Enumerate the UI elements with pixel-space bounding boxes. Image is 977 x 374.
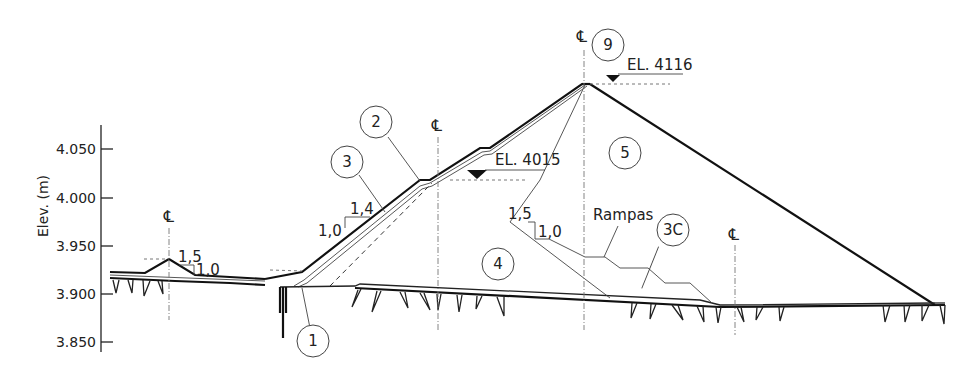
upstream-slope-v: 1,0 bbox=[318, 222, 342, 240]
y-tick-3950: 3.950 bbox=[56, 238, 96, 254]
internal-slope-v: 1,0 bbox=[538, 223, 562, 241]
crest-elevation-label: EL. 4116 bbox=[627, 56, 693, 74]
upstream-slope-h: 1,4 bbox=[350, 200, 374, 218]
centerline-icon: ℄ bbox=[576, 27, 588, 46]
berm-elevation-label: EL. 4015 bbox=[495, 151, 561, 169]
svg-text:3: 3 bbox=[342, 153, 352, 171]
zone-bubble-1: 1 bbox=[297, 325, 329, 357]
centerline-icon: ℄ bbox=[431, 116, 443, 135]
y-tick-3850: 3.850 bbox=[56, 334, 96, 350]
crest-centerline: ℄ bbox=[576, 27, 588, 330]
zone-bubble-9: 9 bbox=[592, 29, 624, 61]
ramps-label: Rampas bbox=[593, 206, 654, 224]
downstream-centerline: ℄ bbox=[728, 225, 740, 335]
svg-text:1: 1 bbox=[308, 332, 318, 350]
water-level-triangle-icon bbox=[467, 170, 487, 179]
zone-bubble-4: 4 bbox=[482, 248, 514, 280]
svg-text:4: 4 bbox=[493, 255, 503, 273]
zone-bubble-3: 3 bbox=[331, 146, 363, 178]
left-dike-centerline: ℄ bbox=[163, 207, 175, 320]
centerline-icon: ℄ bbox=[728, 225, 740, 244]
svg-text:2: 2 bbox=[371, 113, 381, 131]
y-axis: 4.050 4.000 3.950 3.900 3.850 Elev. (m) bbox=[35, 125, 113, 352]
y-tick-4000: 4.000 bbox=[56, 190, 96, 206]
zone-bubble-2: 2 bbox=[360, 106, 392, 138]
dam-cross-section-diagram: 4.050 4.000 3.950 3.900 3.850 Elev. (m) … bbox=[0, 0, 977, 374]
left-dike: 1,5 1,0 bbox=[110, 248, 265, 296]
y-tick-4050: 4.050 bbox=[56, 141, 96, 157]
y-axis-label: Elev. (m) bbox=[35, 175, 51, 237]
svg-text:3C: 3C bbox=[663, 221, 683, 239]
water-level-triangle-icon bbox=[606, 75, 620, 82]
internal-slope-h: 1,5 bbox=[508, 205, 532, 223]
svg-text:5: 5 bbox=[620, 144, 630, 162]
svg-text:9: 9 bbox=[603, 36, 613, 54]
centerline-icon: ℄ bbox=[163, 207, 175, 226]
zone-bubble-3c: 3C bbox=[657, 214, 689, 246]
zone-bubble-5: 5 bbox=[609, 137, 641, 169]
y-tick-3900: 3.900 bbox=[56, 286, 96, 302]
left-dike-slope-v: 1,0 bbox=[196, 261, 220, 279]
